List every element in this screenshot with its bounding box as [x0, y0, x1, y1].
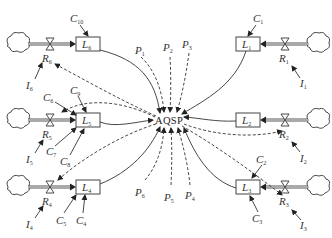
- link-p5-aqsp: [171, 128, 172, 185]
- label-r5: R5: [41, 128, 52, 141]
- link-i4-r4: [35, 206, 43, 218]
- link-c3-l3: [250, 196, 258, 212]
- label-c6: C6: [43, 91, 53, 104]
- link-l2-aqsp: [184, 117, 236, 121]
- center-node-aqsp: AQSP: [155, 115, 183, 126]
- link-l6-aqsp: [100, 50, 160, 113]
- label-c9: C9: [70, 84, 80, 97]
- label-r4: R4: [41, 195, 52, 208]
- label-c4: C4: [76, 214, 86, 227]
- link-c4-l4: [83, 195, 85, 213]
- link-aqsp-r3: [182, 126, 282, 195]
- stock-l4: L4: [76, 180, 100, 194]
- label-r2: R2: [278, 128, 289, 141]
- link-c1-l1: [248, 25, 256, 36]
- label-p3: P3: [181, 38, 192, 51]
- label-c7: C7: [46, 145, 56, 158]
- label-i6: I6: [25, 79, 33, 92]
- stock-flow-diagram: L6 L1 L5 L2 L4 L3 AQSP: [0, 0, 332, 238]
- link-p6-aqsp: [145, 128, 164, 180]
- label-r1: R1: [278, 52, 289, 65]
- link-p3-aqsp: [177, 53, 189, 112]
- link-aqsp-r2: [184, 124, 282, 135]
- label-p1: P1: [134, 44, 145, 57]
- label-c3: C3: [252, 212, 262, 225]
- label-i1: I1: [299, 77, 307, 90]
- link-i5-r5: [35, 140, 43, 153]
- link-c5-l4: [64, 195, 76, 213]
- link-c8-l5: [70, 129, 84, 155]
- stock-l3: L3: [236, 180, 260, 194]
- cloud-source-bottom-left: [7, 175, 30, 195]
- link-l5-aqsp: [100, 120, 153, 125]
- label-r6: R6: [41, 52, 52, 65]
- label-c8: C8: [60, 155, 70, 168]
- label-c2: C2: [256, 153, 266, 166]
- label-c5: C5: [56, 214, 66, 227]
- cloud-source-top-right: [307, 32, 330, 52]
- link-l4-aqsp: [100, 127, 160, 184]
- label-i2: I2: [299, 152, 307, 165]
- link-i1-r1: [292, 66, 300, 78]
- label-p5: P5: [163, 191, 174, 204]
- stock-l2: L2: [236, 113, 260, 127]
- label-i3: I3: [299, 219, 307, 232]
- label-p6: P6: [134, 186, 145, 199]
- link-p2-aqsp: [170, 57, 171, 112]
- label-p4: P4: [184, 189, 195, 202]
- stock-l1: L1: [236, 37, 260, 51]
- label-i5: I5: [25, 153, 33, 166]
- link-aqsp-r4: [58, 124, 156, 180]
- link-c7-l5: [55, 128, 76, 146]
- cloud-source-bottom-right: [307, 175, 330, 195]
- link-c6-l5: [55, 102, 76, 115]
- link-c10-l6: [80, 25, 88, 36]
- cloud-source-middle-right: [307, 108, 330, 128]
- link-i2-r2: [292, 142, 300, 152]
- link-i6-r6: [35, 63, 42, 79]
- link-l1-aqsp: [182, 51, 246, 114]
- link-p4-aqsp: [178, 128, 190, 185]
- label-c1: C1: [253, 12, 263, 25]
- stock-l5: L5: [76, 113, 100, 127]
- label-p2: P2: [162, 41, 173, 54]
- label-c10: C10: [70, 12, 83, 25]
- stock-l6: L6: [76, 37, 100, 51]
- label-i4: I4: [25, 218, 33, 231]
- cloud-source-middle-left: [7, 108, 30, 128]
- cloud-source-top-left: [7, 32, 30, 52]
- link-p1-aqsp: [141, 57, 164, 112]
- link-l3-aqsp: [184, 128, 236, 188]
- label-r3: R3: [278, 195, 289, 208]
